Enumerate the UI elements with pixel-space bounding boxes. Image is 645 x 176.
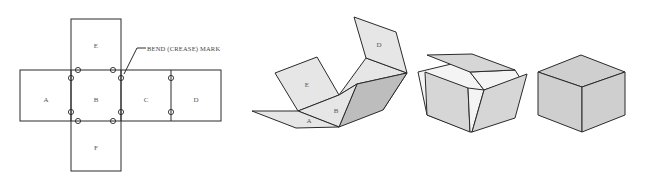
net-label-f: F (94, 144, 98, 152)
net-label-c: C (144, 96, 149, 104)
nearly-closed-box (418, 54, 527, 132)
net-label-e: E (94, 42, 98, 50)
fold-label-d: D (376, 41, 381, 49)
folding-diagram: A B C D E F BEND (CREASE) MARK A B D E (0, 0, 645, 176)
fold-label-a: A (306, 117, 311, 125)
callout-bend-crease-mark: BEND (CREASE) MARK (147, 45, 220, 53)
partially-folded-net: A B D E (252, 17, 407, 128)
fold-label-e: E (305, 81, 309, 89)
cube-net: A B C D E F BEND (CREASE) MARK (20, 19, 221, 171)
net-label-d: D (193, 96, 198, 104)
net-label-a: A (43, 96, 48, 104)
fold-label-b: B (334, 107, 339, 115)
closed-cube (538, 55, 625, 132)
net-label-b: B (94, 96, 99, 104)
